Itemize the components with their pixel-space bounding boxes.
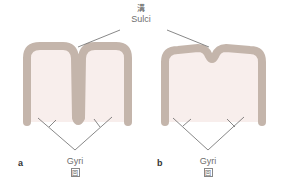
sulci-gyri-diagram	[0, 0, 282, 189]
sulci-label: Sulci	[121, 14, 161, 24]
sulci-chinese-label: 溝	[131, 4, 151, 14]
figure-b-cortex	[165, 48, 262, 122]
figure-a-cortex	[27, 46, 128, 122]
gyri-chinese-a: 回	[71, 168, 80, 177]
sulci-pointer-b	[167, 30, 209, 47]
gyri-chinese-a-wrap: 回	[70, 167, 80, 177]
figure-a-label: a	[18, 158, 23, 168]
gyri-label-a: Gyri	[55, 156, 95, 166]
figure-b-label: b	[157, 158, 163, 168]
gyri-chinese-b-wrap: 回	[203, 167, 213, 177]
gyri-chinese-b: 回	[204, 168, 213, 177]
gyri-label-b: Gyri	[188, 156, 228, 166]
